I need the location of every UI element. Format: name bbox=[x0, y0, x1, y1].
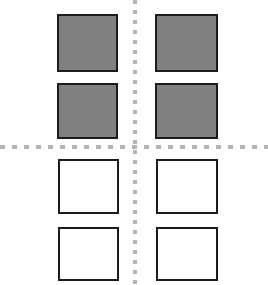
square-r2c1 bbox=[57, 83, 118, 139]
square-r4c1 bbox=[58, 227, 119, 281]
square-r1c2 bbox=[155, 14, 218, 72]
square-r3c2 bbox=[156, 159, 218, 214]
figure-canvas bbox=[0, 0, 268, 285]
square-r2c2 bbox=[155, 83, 218, 139]
horizontal-dashed-divider bbox=[0, 145, 268, 149]
square-r4c2 bbox=[156, 227, 218, 281]
square-r1c1 bbox=[57, 14, 118, 72]
vertical-dashed-divider bbox=[133, 0, 137, 285]
square-r3c1 bbox=[58, 159, 119, 214]
